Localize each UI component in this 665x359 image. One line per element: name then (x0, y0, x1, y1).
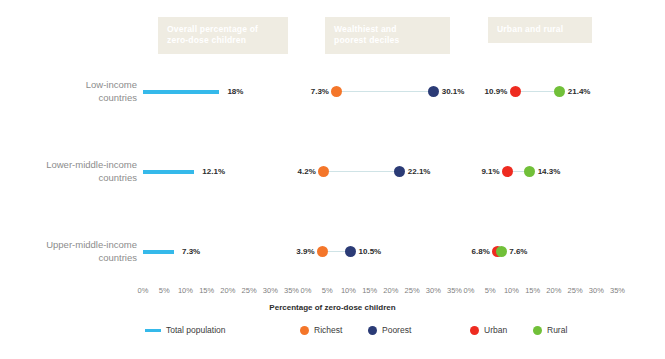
row-label-upper-middle-income: Upper-middle-income countries (8, 238, 137, 264)
legend-swatch-urban-icon (470, 326, 479, 335)
x-axis-overall: 0%5%10%15%20%25%30%35% (143, 286, 300, 298)
legend-label-rural: Rural (547, 325, 567, 335)
connector-line (515, 91, 560, 92)
value-label-richest: 3.9% (296, 246, 314, 257)
legend-label-urban: Urban (484, 325, 507, 335)
panel-header-overall-line2: zero-dose children (167, 35, 279, 46)
plot-panel-urban-rural: 10.9%21.4%9.1%14.3%6.8%7.6% (469, 60, 626, 280)
legend-swatch-rural-icon (533, 326, 542, 335)
axis-tick-15: 15% (199, 286, 214, 295)
dot-richest[interactable] (331, 86, 342, 97)
row-label-upper-middle-income-line1: Upper-middle-income (8, 238, 137, 251)
chart-legend: Total population Richest Poorest Urban R… (0, 325, 665, 343)
axis-tick-20: 20% (220, 286, 235, 295)
series-row-urbanrural-upper-middle-income-countries: 6.8%7.6% (469, 242, 626, 262)
legend-item-rural[interactable]: Rural (533, 325, 567, 335)
value-label-urban: 9.1% (481, 166, 499, 177)
axis-tick-5: 5% (159, 286, 170, 295)
connector-line (337, 91, 434, 92)
legend-item-total-population[interactable]: Total population (145, 325, 226, 335)
legend-swatch-total-population-icon (145, 329, 161, 332)
axis-tick-20: 20% (383, 286, 398, 295)
axis-tick-0: 0% (464, 286, 475, 295)
value-label-poorest: 30.1% (442, 86, 465, 97)
row-label-lower-middle-income-line1: Lower-middle-income (8, 158, 137, 171)
legend-swatch-richest-icon (300, 326, 309, 335)
legend-item-poorest[interactable]: Poorest (368, 325, 411, 335)
value-label-poorest: 22.1% (408, 166, 431, 177)
axis-tick-0: 0% (138, 286, 149, 295)
axis-tick-10: 10% (504, 286, 519, 295)
dot-urban[interactable] (510, 86, 521, 97)
row-label-upper-middle-income-line2: countries (8, 251, 137, 264)
plot-panel-deciles: 7.3%30.1%4.2%22.1%3.9%10.5% (306, 60, 463, 280)
value-label-rural: 21.4% (568, 86, 591, 97)
axis-tick-25: 25% (405, 286, 420, 295)
panel-header-urban-rural-line1: Urban and rural (497, 24, 583, 35)
connector-line (324, 171, 400, 172)
dot-rural[interactable] (524, 166, 535, 177)
dot-richest[interactable] (318, 166, 329, 177)
x-axis-urban-rural: 0%5%10%15%20%25%30%35% (469, 286, 626, 298)
axis-tick-5: 5% (485, 286, 496, 295)
dot-urban[interactable] (502, 166, 513, 177)
row-label-low-income-line2: countries (8, 91, 137, 104)
series-row-overall-low-income-countries: 18% (143, 82, 300, 102)
dot-rural[interactable] (496, 246, 507, 257)
value-label-poorest: 10.5% (359, 246, 382, 257)
series-row-deciles-upper-middle-income-countries: 3.9%10.5% (306, 242, 463, 262)
legend-label-total-population: Total population (166, 325, 226, 335)
panel-header-deciles-line1: Wealthiest and (334, 24, 441, 35)
plot-panel-overall: 18%12.1%7.3% (143, 60, 300, 280)
value-label-richest: 4.2% (298, 166, 316, 177)
value-label-richest: 7.3% (311, 86, 329, 97)
series-row-overall-upper-middle-income-countries: 7.3% (143, 242, 300, 262)
value-label-rural: 14.3% (538, 166, 561, 177)
value-label-urban: 6.8% (472, 246, 490, 257)
dot-rural[interactable] (554, 86, 565, 97)
axis-tick-25: 25% (568, 286, 583, 295)
axis-tick-30: 30% (589, 286, 604, 295)
axis-tick-35: 35% (610, 286, 625, 295)
series-row-deciles-low-income-countries: 7.3%30.1% (306, 82, 463, 102)
value-label-rural: 7.6% (509, 246, 527, 257)
axis-tick-15: 15% (525, 286, 540, 295)
legend-item-richest[interactable]: Richest (300, 325, 342, 335)
dot-poorest[interactable] (394, 166, 405, 177)
axis-tick-20: 20% (546, 286, 561, 295)
axis-tick-15: 15% (362, 286, 377, 295)
row-label-low-income: Low-income countries (8, 78, 137, 104)
axis-tick-25: 25% (242, 286, 257, 295)
axis-tick-10: 10% (341, 286, 356, 295)
zero-dose-children-chart: Overall percentage of zero-dose children… (0, 0, 665, 359)
legend-label-richest: Richest (314, 325, 342, 335)
legend-item-urban[interactable]: Urban (470, 325, 507, 335)
dot-poorest[interactable] (345, 246, 356, 257)
series-row-urbanrural-lower-middle-income-countries: 9.1%14.3% (469, 162, 626, 182)
row-label-lower-middle-income-line2: countries (8, 171, 137, 184)
bar-total-population[interactable] (143, 250, 174, 254)
value-label-total-population: 7.3% (182, 246, 200, 257)
legend-swatch-poorest-icon (368, 326, 377, 335)
dot-richest[interactable] (317, 246, 328, 257)
value-label-total-population: 18% (227, 86, 243, 97)
bar-total-population[interactable] (143, 90, 219, 94)
panel-header-deciles-line2: poorest deciles (334, 35, 441, 46)
axis-tick-10: 10% (178, 286, 193, 295)
panel-header-deciles: Wealthiest and poorest deciles (325, 17, 450, 54)
panel-header-urban-rural: Urban and rural (488, 17, 592, 43)
series-row-deciles-lower-middle-income-countries: 4.2%22.1% (306, 162, 463, 182)
axis-tick-0: 0% (301, 286, 312, 295)
row-label-lower-middle-income: Lower-middle-income countries (8, 158, 137, 184)
legend-label-poorest: Poorest (382, 325, 411, 335)
axis-tick-35: 35% (447, 286, 462, 295)
bar-total-population[interactable] (143, 170, 194, 174)
value-label-urban: 10.9% (485, 86, 508, 97)
series-row-urbanrural-low-income-countries: 10.9%21.4% (469, 82, 626, 102)
panel-header-overall: Overall percentage of zero-dose children (158, 17, 288, 54)
axis-tick-30: 30% (263, 286, 278, 295)
axis-tick-35: 35% (284, 286, 299, 295)
x-axis-title: Percentage of zero-dose children (0, 303, 665, 312)
axis-tick-5: 5% (322, 286, 333, 295)
dot-poorest[interactable] (428, 86, 439, 97)
